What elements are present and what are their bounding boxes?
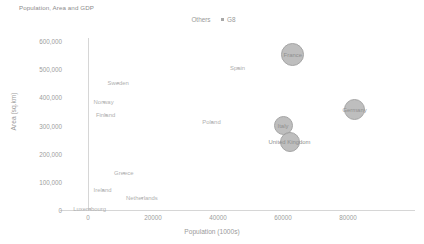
x-axis-title: Population (1000s) xyxy=(0,228,424,235)
data-point-label: Sweden xyxy=(108,80,129,86)
y-axis-line xyxy=(88,38,89,211)
y-tick-label: 500,000 xyxy=(4,66,62,73)
data-point-label: Greece xyxy=(114,170,133,176)
data-point-label: Luxembourg xyxy=(73,206,106,212)
data-point[interactable]: Finland xyxy=(105,114,107,116)
data-point-label: Finland xyxy=(96,112,115,118)
y-tick-label: 600,000 xyxy=(4,38,62,45)
data-point-label: Germany xyxy=(342,106,366,112)
data-point-label: France xyxy=(284,52,302,58)
data-point[interactable]: Sweden xyxy=(117,82,119,84)
data-point[interactable]: Norway xyxy=(103,101,105,103)
data-point-label: Netherlands xyxy=(126,195,158,201)
data-point-label: Italy xyxy=(278,122,289,128)
data-point[interactable]: Greece xyxy=(123,172,125,174)
x-tick-label: 20000 xyxy=(144,214,162,221)
data-point-label: Norway xyxy=(94,99,114,105)
data-point[interactable]: Luxembourg xyxy=(89,208,91,210)
data-point-label: Spain xyxy=(230,65,245,71)
x-tick-label: 0 xyxy=(86,214,90,221)
x-tick-label: 40000 xyxy=(209,214,227,221)
data-point-label: Ireland xyxy=(94,187,112,193)
data-point[interactable]: France xyxy=(282,44,303,65)
y-tick-label: 100,000 xyxy=(4,178,62,185)
data-point[interactable]: Netherlands xyxy=(141,197,143,199)
x-tick-label: 80000 xyxy=(339,214,357,221)
x-tick-label: 60000 xyxy=(274,214,292,221)
scatter-chart: Population, Area and GDP Others G8 0100,… xyxy=(0,0,424,244)
data-point[interactable]: Ireland xyxy=(102,189,104,191)
data-point-label: Poland xyxy=(202,119,220,125)
data-point[interactable]: Germany xyxy=(345,100,364,119)
data-point[interactable]: Spain xyxy=(237,67,239,69)
x-axis-line xyxy=(60,210,415,211)
data-point[interactable]: Poland xyxy=(211,121,213,123)
plot-area: 0100,000200,000300,000400,000500,000600,… xyxy=(0,0,424,244)
y-tick-label: 200,000 xyxy=(4,150,62,157)
data-point-label: United Kingdom xyxy=(269,139,311,145)
y-tick-label: 0 xyxy=(4,207,62,214)
data-point[interactable]: United Kingdom xyxy=(281,133,299,151)
y-axis-title: Area (sq.km) xyxy=(10,82,17,142)
